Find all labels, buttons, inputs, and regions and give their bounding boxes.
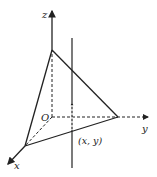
y-axis-label: y (141, 123, 148, 134)
triangle-edge-zx (25, 50, 52, 146)
origin-label: O (41, 112, 49, 123)
diagram-canvas: z O y x (x, y) (0, 0, 157, 177)
point-label: (x, y) (78, 135, 102, 146)
x-axis-label: x (14, 160, 20, 171)
triangle-edge-zy (52, 50, 118, 117)
z-axis-label: z (41, 9, 48, 20)
